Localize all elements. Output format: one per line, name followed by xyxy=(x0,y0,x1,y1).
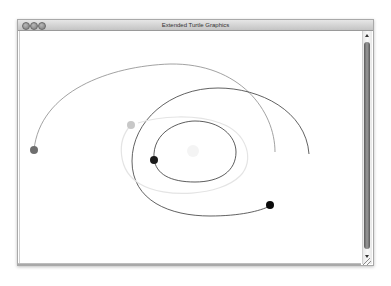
black-turtle-dot xyxy=(266,201,274,209)
dark-turtle-dot-inner xyxy=(150,156,158,164)
resize-grip-icon[interactable] xyxy=(363,258,371,265)
light-turtle-dot xyxy=(127,121,135,129)
window-title: Extended Turtle Graphics xyxy=(18,20,373,30)
scroll-up-arrow-icon[interactable] xyxy=(365,34,369,37)
outer-grey-arc xyxy=(34,64,275,152)
grey-turtle-dot xyxy=(30,146,38,154)
turtle-canvas-area[interactable] xyxy=(19,31,362,263)
scrollbar-thumb[interactable] xyxy=(364,42,370,249)
title-bar[interactable]: Extended Turtle Graphics xyxy=(18,20,373,31)
large-dark-spiral xyxy=(132,88,309,216)
app-window: Extended Turtle Graphics xyxy=(17,19,374,266)
faint-center-dot xyxy=(187,145,199,157)
vertical-scrollbar[interactable] xyxy=(362,31,372,264)
turtle-canvas[interactable] xyxy=(20,31,362,263)
bottom-border xyxy=(18,263,361,265)
